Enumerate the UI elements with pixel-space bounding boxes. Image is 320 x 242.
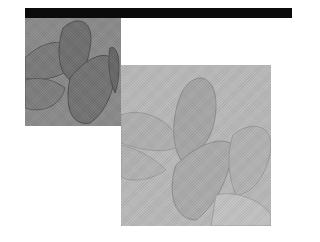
leaf-shapes-icon: [121, 65, 271, 226]
dark-leaf-image: [25, 18, 121, 126]
leaf-shapes-icon: [25, 18, 121, 126]
header-bar: [25, 8, 292, 18]
light-leaf-image: [121, 65, 271, 226]
